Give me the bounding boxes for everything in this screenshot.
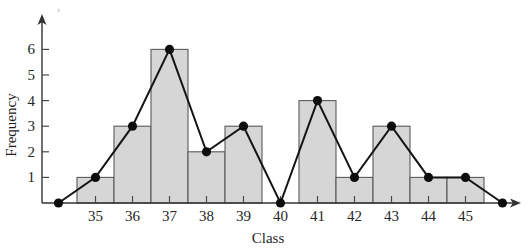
y-axis-tick-label: 2 bbox=[28, 144, 36, 160]
frequency-polygon-point bbox=[91, 173, 100, 182]
x-axis-tick-label: 42 bbox=[347, 208, 362, 224]
y-axis-tick-label: 3 bbox=[28, 118, 36, 134]
frequency-polygon-point bbox=[387, 122, 396, 131]
x-axis-tick-label: 37 bbox=[162, 208, 178, 224]
ghost-glyph-top: , bbox=[57, 0, 60, 13]
frequency-axis: 123456 bbox=[28, 14, 50, 203]
frequency-polygon-point bbox=[239, 122, 248, 131]
y-axis-tick-label: 6 bbox=[28, 41, 36, 57]
histogram-bar bbox=[114, 126, 151, 203]
frequency-polygon-point bbox=[313, 96, 322, 105]
histogram-bar bbox=[373, 126, 410, 203]
chart-page: , 123456 3536373839404142434445 Frequenc… bbox=[0, 0, 531, 248]
frequency-histogram-chart: , 123456 3536373839404142434445 Frequenc… bbox=[0, 0, 531, 248]
frequency-polygon-point bbox=[498, 198, 507, 207]
histogram-bar bbox=[188, 152, 225, 203]
x-axis-tick-label: 44 bbox=[421, 208, 437, 224]
y-axis-tick-label: 5 bbox=[28, 67, 36, 83]
x-axis-tick-label: 40 bbox=[273, 208, 288, 224]
y-axis-ticks: 123456 bbox=[28, 41, 50, 185]
histogram-bar bbox=[299, 101, 336, 203]
x-axis-title: Class bbox=[252, 230, 285, 246]
frequency-polygon-point bbox=[165, 45, 174, 54]
histogram-bar bbox=[225, 126, 262, 203]
x-axis-tick-label: 36 bbox=[125, 208, 141, 224]
frequency-polygon-point bbox=[276, 198, 285, 207]
histogram-bars bbox=[77, 49, 484, 203]
x-axis-tick-label: 43 bbox=[384, 208, 399, 224]
frequency-polygon-point bbox=[54, 198, 63, 207]
y-axis-title: Frequency bbox=[3, 93, 19, 157]
frequency-polygon-point bbox=[461, 173, 470, 182]
x-axis-tick-label: 45 bbox=[458, 208, 473, 224]
x-axis-tick-label: 39 bbox=[236, 208, 251, 224]
frequency-polygon-point bbox=[350, 173, 359, 182]
frequency-polygon-point bbox=[202, 147, 211, 156]
frequency-polygon-point bbox=[424, 173, 433, 182]
x-axis-tick-label: 41 bbox=[310, 208, 325, 224]
x-axis-tick-label: 38 bbox=[199, 208, 214, 224]
y-axis-tick-label: 4 bbox=[28, 93, 36, 109]
y-axis-tick-label: 1 bbox=[28, 169, 36, 185]
frequency-polygon-point bbox=[128, 122, 137, 131]
ghost-glyph-text: , bbox=[57, 0, 60, 13]
histogram-bar bbox=[151, 49, 188, 203]
x-axis-tick-label: 35 bbox=[88, 208, 103, 224]
